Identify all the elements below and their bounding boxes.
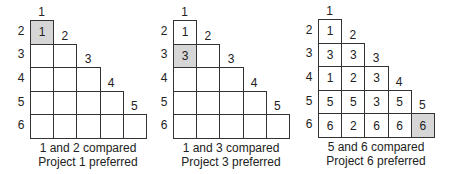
comparison-cell: 6: [388, 113, 412, 138]
comparison-cell: [243, 114, 267, 139]
comparison-cell: [173, 114, 197, 139]
comparison-cell: [219, 114, 243, 139]
comparison-cell: 3: [364, 90, 388, 115]
comparison-cell: [100, 114, 124, 139]
row-label: 4: [302, 70, 316, 84]
row-label: 3: [302, 46, 316, 60]
comparison-cell: [30, 114, 54, 139]
column-label: 3: [81, 52, 95, 66]
comparison-cell: 3: [364, 66, 388, 91]
preference-caption: Project 6 preferred: [316, 154, 436, 168]
comparison-cell: [196, 67, 220, 92]
comparison-cell: 1: [318, 19, 342, 44]
comparison-cell: [53, 67, 77, 92]
row-label: 3: [14, 47, 28, 61]
comparison-cell: [243, 91, 267, 116]
column-label: 4: [104, 76, 118, 90]
comparison-cell: 6: [364, 113, 388, 138]
comparison-cell: [196, 114, 220, 139]
row-label: 3: [157, 47, 171, 61]
column-label: 1: [178, 5, 192, 19]
preference-caption: Project 3 preferred: [171, 155, 291, 169]
column-label: 3: [369, 51, 383, 65]
comparison-cell: 1: [318, 66, 342, 91]
row-label: 5: [157, 95, 171, 109]
comparison-caption: 1 and 2 compared: [28, 141, 148, 155]
row-label: 6: [302, 117, 316, 131]
row-label: 6: [14, 118, 28, 132]
comparison-cell: [219, 67, 243, 92]
column-label: 4: [392, 75, 406, 89]
preference-caption: Project 1 preferred: [28, 155, 148, 169]
comparison-cell: [30, 67, 54, 92]
column-label: 4: [247, 76, 261, 90]
comparison-cell: [196, 44, 220, 69]
comparison-cell: [76, 91, 100, 116]
column-label: 1: [323, 4, 337, 18]
comparison-cell: [76, 114, 100, 139]
comparison-cell: 1: [173, 20, 197, 45]
column-label: 2: [58, 29, 72, 43]
comparison-cell: 5: [341, 90, 365, 115]
comparison-cell: [53, 44, 77, 69]
column-label: 5: [415, 98, 429, 112]
column-label: 5: [270, 99, 284, 113]
comparison-cell: [173, 91, 197, 116]
comparison-cell: 6: [318, 113, 342, 138]
comparison-cell: [173, 67, 197, 92]
row-label: 5: [302, 94, 316, 108]
comparison-cell: [30, 91, 54, 116]
comparison-cell: [100, 91, 124, 116]
row-label: 2: [302, 23, 316, 37]
comparison-cell: [123, 114, 147, 139]
comparison-cell: [219, 91, 243, 116]
comparison-cell: [30, 44, 54, 69]
comparison-cell: 5: [318, 90, 342, 115]
comparison-cell: 2: [341, 66, 365, 91]
comparison-cell: 2: [341, 113, 365, 138]
comparison-cell: [53, 91, 77, 116]
highlighted-cell: 1: [30, 20, 54, 45]
comparison-cell: [53, 114, 77, 139]
comparison-cell: 3: [341, 43, 365, 68]
comparison-cell: [266, 114, 290, 139]
row-label: 2: [14, 24, 28, 38]
column-label: 2: [201, 29, 215, 43]
column-label: 3: [224, 52, 238, 66]
comparison-cell: 3: [318, 43, 342, 68]
highlighted-cell: 3: [173, 44, 197, 69]
comparison-caption: 1 and 3 compared: [171, 141, 291, 155]
highlighted-cell: 6: [411, 113, 435, 138]
row-label: 6: [157, 118, 171, 132]
column-label: 5: [127, 99, 141, 113]
row-label: 4: [157, 71, 171, 85]
comparison-cell: 5: [388, 90, 412, 115]
row-label: 4: [14, 71, 28, 85]
column-label: 2: [346, 28, 360, 42]
row-label: 5: [14, 95, 28, 109]
comparison-cell: [196, 91, 220, 116]
row-label: 2: [157, 24, 171, 38]
column-label: 1: [35, 5, 49, 19]
comparison-caption: 5 and 6 compared: [316, 140, 436, 154]
comparison-cell: [76, 67, 100, 92]
